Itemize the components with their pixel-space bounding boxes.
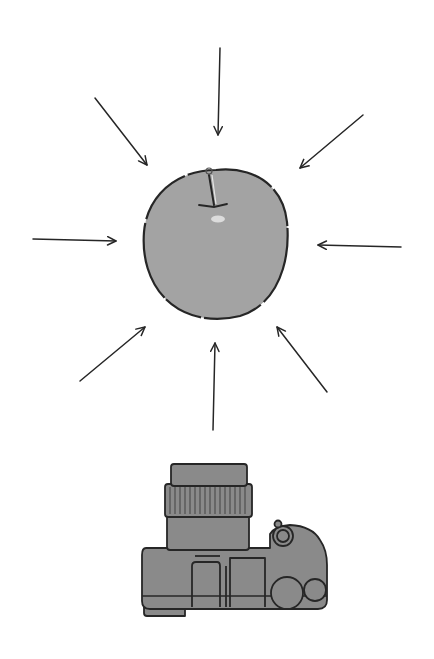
camera-lens-front [171, 464, 247, 486]
camera-icon [142, 464, 327, 616]
arrow-bottom-icon [213, 343, 215, 430]
arrow-top-right-icon [300, 115, 363, 168]
camera-mode-dial [273, 526, 293, 546]
camera-control-wheel-large[interactable] [271, 577, 303, 609]
camera-focus-ring [165, 484, 252, 517]
arrow-bottom-right-icon [277, 327, 327, 392]
arrow-top-left-icon [95, 98, 147, 165]
arrow-top-icon [218, 48, 220, 135]
apple-body [144, 169, 288, 318]
camera-control-wheel-small[interactable] [304, 579, 326, 601]
arrow-left-icon [33, 239, 116, 241]
camera-lens-barrel [167, 515, 249, 550]
lighting-diagram [0, 0, 434, 659]
arrow-bottom-left-icon [80, 327, 145, 381]
apple-highlight [211, 216, 225, 223]
arrow-right-icon [318, 245, 401, 247]
apple-icon [144, 168, 288, 319]
